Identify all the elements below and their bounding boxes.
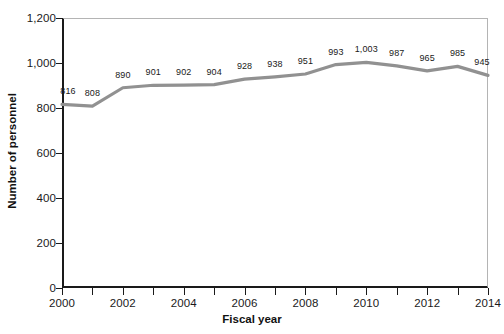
- y-axis-title: Number of personnel: [6, 76, 18, 226]
- x-axis-title: Fiscal year: [0, 313, 504, 325]
- chart-plot-area: [0, 0, 504, 334]
- chart-page: 02004006008001,0001,200 2000200220042006…: [0, 0, 504, 334]
- personnel-line-series: [62, 62, 488, 106]
